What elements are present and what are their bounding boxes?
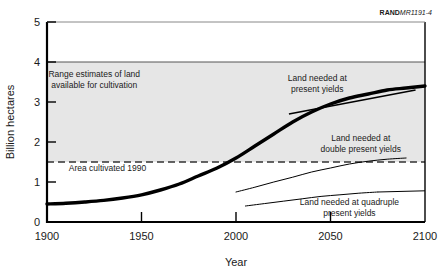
- x-axis-title: Year: [225, 256, 248, 268]
- annotation-line: Range estimates of land: [48, 69, 140, 79]
- x-tick-label: 1900: [35, 230, 59, 242]
- annotation-line: present yields: [291, 84, 343, 94]
- chart-canvas: 012345 19001950200020502100 Range estima…: [0, 0, 438, 276]
- annotation-present-yields: Land needed atpresent yields: [288, 73, 348, 94]
- figure: RANDMR1191-4 012345 19001950200020502100…: [0, 0, 438, 276]
- annotation-quadruple-present-yields: Land needed at quadruplepresent yields: [300, 197, 400, 218]
- annotation-area-cultivated-1990: Area cultivated 1990: [69, 163, 147, 173]
- y-tick-label: 2: [34, 136, 40, 148]
- y-tick-label: 3: [34, 96, 40, 108]
- annotation-line: available for cultivation: [51, 80, 137, 90]
- x-tick-labels: 19001950200020502100: [35, 230, 437, 242]
- x-tick-label: 1950: [129, 230, 153, 242]
- annotation-line: double present yields: [321, 144, 401, 154]
- leader-line-quadruple: [378, 191, 425, 192]
- annotation-line: Area cultivated 1990: [69, 163, 147, 173]
- rand-code: MR1191-4: [400, 9, 432, 16]
- annotation-line: Land needed at quadruple: [300, 197, 400, 207]
- y-tick-label: 1: [34, 176, 40, 188]
- x-tick-label: 2050: [318, 230, 342, 242]
- annotation-range-estimates: Range estimates of landavailable for cul…: [48, 69, 140, 90]
- y-tick-label: 4: [34, 56, 40, 68]
- rand-brand: RAND: [380, 9, 400, 16]
- y-tick-label: 5: [34, 16, 40, 28]
- y-tick-label: 0: [34, 216, 40, 228]
- annotation-line: Land needed at: [331, 133, 391, 143]
- x-tick-marks: [142, 212, 331, 222]
- y-tick-labels: 012345: [34, 16, 40, 228]
- y-axis-title: Billion hectares: [4, 84, 16, 159]
- annotation-line: present yields: [323, 208, 375, 218]
- rand-credit: RANDMR1191-4: [380, 9, 432, 16]
- annotation-double-present-yields: Land needed atdouble present yields: [321, 133, 401, 154]
- annotation-line: Land needed at: [288, 73, 348, 83]
- x-tick-label: 2000: [224, 230, 248, 242]
- x-tick-label: 2100: [413, 230, 437, 242]
- series-double-present-yields: [236, 158, 406, 192]
